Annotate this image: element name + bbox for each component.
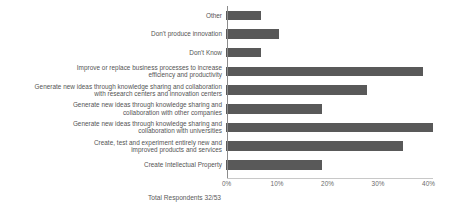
bar-row: Don't produce innovation xyxy=(0,25,469,44)
bar-new-products-services xyxy=(226,141,403,151)
category-label: Don't Know xyxy=(0,49,226,56)
category-label: Don't produce innovation xyxy=(0,30,226,37)
bar-intellectual-property xyxy=(226,160,322,170)
category-label: Generate new ideas through knowledge sha… xyxy=(0,83,226,98)
bar-row: Improve or replace business processes to… xyxy=(0,62,469,81)
bar-dont-produce-innovation xyxy=(226,29,279,39)
horizontal-bar-chart: Other Don't produce innovation Don't Kno… xyxy=(0,0,469,214)
category-label: Generate new ideas through knowledge sha… xyxy=(0,120,226,135)
footnote-text: Total Respondents 32/53 xyxy=(148,194,221,201)
category-label: Improve or replace business processes to… xyxy=(0,64,226,79)
bar-row: Create Intellectual Property xyxy=(0,156,469,175)
bar-other xyxy=(226,11,261,21)
bar-research-centers xyxy=(226,85,367,95)
bar-cell xyxy=(226,25,469,44)
category-label: Create, test and experiment entirely new… xyxy=(0,139,226,154)
bar-cell xyxy=(226,62,469,81)
bar-row: Generate new ideas through knowledge sha… xyxy=(0,118,469,137)
bar-cell xyxy=(226,156,469,175)
plot-area: Other Don't produce innovation Don't Kno… xyxy=(0,0,469,214)
bar-rows: Other Don't produce innovation Don't Kno… xyxy=(0,6,469,174)
x-tick-label: 30% xyxy=(372,179,385,188)
bar-row: Other xyxy=(0,6,469,25)
bar-row: Create, test and experiment entirely new… xyxy=(0,137,469,156)
bar-cell xyxy=(226,99,469,118)
bar-cell xyxy=(226,43,469,62)
x-tick-label: 40% xyxy=(422,179,435,188)
bar-row: Generate new ideas through knowledge sha… xyxy=(0,99,469,118)
x-axis-ticks: 0%10%20%30%40% xyxy=(0,179,469,191)
bar-cell xyxy=(226,118,469,137)
bar-row: Don't Know xyxy=(0,43,469,62)
x-tick-label: 10% xyxy=(271,179,284,188)
x-tick-label: 0% xyxy=(222,179,231,188)
category-label: Generate new ideas through knowledge sha… xyxy=(0,101,226,116)
category-label: Other xyxy=(0,12,226,19)
bar-dont-know xyxy=(226,48,261,58)
bar-improve-business-processes xyxy=(226,67,423,77)
bar-other-companies xyxy=(226,104,322,114)
x-tick-label: 20% xyxy=(321,179,334,188)
y-axis-line xyxy=(227,6,228,178)
category-label: Create Intellectual Property xyxy=(0,161,226,168)
bar-cell xyxy=(226,81,469,100)
bar-cell xyxy=(226,6,469,25)
bar-row: Generate new ideas through knowledge sha… xyxy=(0,81,469,100)
chart-footnote: Total Respondents 32/53 xyxy=(0,194,469,201)
bar-cell xyxy=(226,137,469,156)
bar-universities xyxy=(226,123,433,133)
